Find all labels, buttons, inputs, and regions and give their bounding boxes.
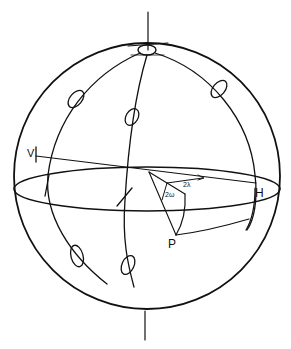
poincare-sphere-figure: V H P 2λ 2ω xyxy=(0,0,291,349)
pole-circle-icon xyxy=(138,45,156,55)
equator-ellipse xyxy=(14,167,280,211)
polarization-ellipse-icon xyxy=(65,87,87,110)
polarization-ellipse-icon xyxy=(208,77,230,100)
line-v-to-h xyxy=(36,156,256,183)
label-2-lambda: 2λ xyxy=(183,181,191,188)
label-2-omega: 2ω xyxy=(165,191,175,198)
meridian-center xyxy=(124,55,147,287)
latitude-through-p xyxy=(176,219,249,235)
polarization-ellipse-icon xyxy=(122,106,141,128)
label-v: V xyxy=(27,147,35,159)
meridian-through-p xyxy=(176,194,185,235)
sphere-outline xyxy=(14,43,280,309)
label-h: H xyxy=(255,186,264,200)
label-p: P xyxy=(168,237,176,251)
polarization-ellipse-icon xyxy=(118,253,137,276)
meridian-right xyxy=(155,53,256,230)
line-origin-to-p xyxy=(149,172,176,235)
